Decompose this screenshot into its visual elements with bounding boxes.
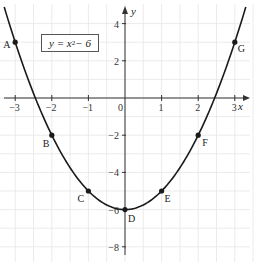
equation-lhs: y = x xyxy=(49,37,72,49)
point-e xyxy=(159,188,164,193)
point-c xyxy=(86,188,91,193)
point-label-d: D xyxy=(128,213,135,224)
data-points: ABCDEFG xyxy=(3,39,245,223)
y-tick-label: 4 xyxy=(114,19,119,30)
y-axis-label: y xyxy=(130,5,136,17)
y-tick-label: −8 xyxy=(108,242,119,253)
y-tick-label: 2 xyxy=(114,56,119,67)
point-f xyxy=(196,133,201,138)
point-b xyxy=(49,133,54,138)
point-d xyxy=(122,207,127,212)
y-axis-arrow-icon xyxy=(122,6,128,14)
point-label-c: C xyxy=(77,193,84,204)
grid xyxy=(0,4,253,262)
point-label-a: A xyxy=(3,39,11,50)
x-tick-label: −3 xyxy=(9,102,20,113)
equation-rhs: − 6 xyxy=(75,37,91,49)
y-tick-label: −2 xyxy=(108,130,119,141)
point-label-g: G xyxy=(238,43,245,54)
equation-label: y = x2 − 6 xyxy=(41,34,99,52)
x-axis-arrow-icon xyxy=(243,95,250,101)
parabola-chart: −3−2−1012342−2−4−6−8xy ABCDEFG xyxy=(0,0,255,267)
point-label-e: E xyxy=(165,193,171,204)
point-label-b: B xyxy=(43,138,50,149)
x-tick-label: 0 xyxy=(118,102,123,113)
point-g xyxy=(232,40,237,45)
x-tick-label: 3 xyxy=(232,102,237,113)
point-a xyxy=(13,40,18,45)
x-axis-label: x xyxy=(237,100,243,112)
point-label-f: F xyxy=(202,137,208,148)
x-tick-label: −2 xyxy=(46,102,57,113)
x-tick-label: 2 xyxy=(195,102,200,113)
x-tick-label: −1 xyxy=(82,102,93,113)
x-tick-label: 1 xyxy=(159,102,164,113)
y-tick-label: −4 xyxy=(108,167,119,178)
